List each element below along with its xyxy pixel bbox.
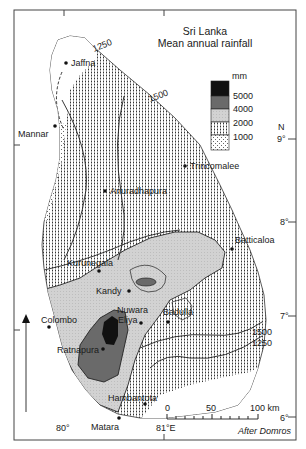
city-jaffna: Jaffna [71, 58, 95, 68]
credit: After Domros [237, 426, 292, 436]
north-label: N [278, 122, 285, 132]
legend-label-4000: 4000 [233, 104, 253, 114]
lat-9-label: 9° [277, 134, 286, 144]
legend-unit: mm [232, 71, 247, 81]
lat-8-label: 8° [280, 217, 289, 227]
isohyet-label-1250-south: 1250 [252, 338, 272, 348]
rainfall-map: Sri Lanka Mean annual rainfall mm 5000 4… [0, 0, 306, 449]
island [30, 30, 270, 420]
map-title-line2: Mean annual rainfall [158, 37, 253, 49]
city-matara: Matara [91, 422, 119, 432]
lat-6-label: 6° [280, 413, 289, 423]
city-kandy: Kandy [96, 286, 122, 296]
legend: mm 5000 4000 2000 1000 [211, 71, 253, 150]
map-title-line1: Sri Lanka [183, 25, 228, 37]
isohyet-label-1500-north: 1500 [147, 88, 169, 104]
city-anuradhapura: Anuradhapura [110, 186, 167, 196]
legend-label-5000: 5000 [233, 91, 253, 101]
legend-label-2000: 2000 [233, 118, 253, 128]
north-arrow-icon [22, 314, 30, 412]
city-badulla: Badulla [163, 307, 193, 317]
city-batticaloa: Batticaloa [235, 235, 275, 245]
city-mannar: Mannar [18, 129, 49, 139]
isohyet-label-1250-north: 1250 [91, 37, 113, 54]
city-trincomalee: Trincomalee [190, 161, 239, 171]
lon-81-label: 81°E [156, 423, 176, 433]
lat-7-label: 7° [280, 311, 289, 321]
isohyet-label-1500-south: 1500 [252, 327, 272, 337]
lon-80-label: 80° [56, 423, 70, 433]
scale-50: 50 [206, 403, 216, 413]
city-hambantota: Hambantota [108, 393, 157, 403]
knuckles-4000 [136, 278, 156, 286]
city-colombo: Colombo [41, 315, 77, 325]
legend-label-1000: 1000 [233, 132, 253, 142]
scale-100: 100 km [250, 403, 280, 413]
city-ratnapura: Ratnapura [57, 345, 99, 355]
scale-0: 0 [165, 403, 170, 413]
city-eliya: Eliya [118, 315, 138, 325]
city-nuwara: Nuwara [117, 305, 148, 315]
city-kurunegala: Kurunegala [67, 258, 113, 268]
